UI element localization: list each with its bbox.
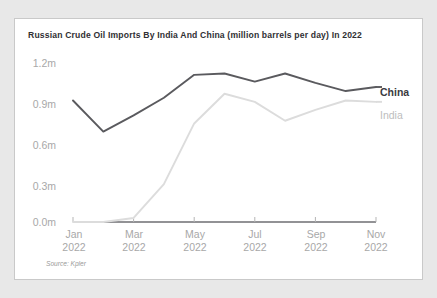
x-tick-label: Jul 2022 — [227, 228, 283, 253]
x-tick-year: 2022 — [167, 241, 223, 254]
x-tick-year: 2022 — [348, 241, 404, 254]
x-tick-year: 2022 — [227, 241, 283, 254]
x-tick-month: Mar — [106, 228, 162, 241]
chart-card: Russian Crude Oil Imports By India And C… — [14, 18, 423, 280]
x-tick-month: Jan — [46, 228, 102, 241]
x-tick-month: Nov — [348, 228, 404, 241]
x-tick-label: Nov 2022 — [348, 228, 404, 253]
x-tick-month: Jul — [227, 228, 283, 241]
x-tick-year: 2022 — [106, 241, 162, 254]
series-lines — [73, 74, 382, 223]
x-tick-label: May 2022 — [167, 228, 223, 253]
y-tick-label: 0.3m — [14, 180, 56, 192]
y-tick-label: 1.2m — [14, 57, 56, 69]
x-tick-year: 2022 — [46, 241, 102, 254]
source-note: Source: Kpler — [46, 260, 86, 267]
series-line-china — [73, 74, 376, 132]
y-tick-label: 0.0m — [14, 216, 56, 228]
series-label-india: India — [380, 109, 403, 121]
series-label-china: China — [380, 86, 409, 98]
x-tick-label: Jan 2022 — [46, 228, 102, 253]
x-tick-month: May — [167, 228, 223, 241]
y-tick-label: 0.9m — [14, 98, 56, 110]
x-tick-year: 2022 — [288, 241, 344, 254]
x-tick-label: Mar 2022 — [106, 228, 162, 253]
x-tick-month: Sep — [288, 228, 344, 241]
x-tick-label: Sep 2022 — [288, 228, 344, 253]
y-tick-label: 0.6m — [14, 139, 56, 151]
line-chart-plot: 1.2m 0.9m 0.6m 0.3m 0.0m Jan 2022 Mar 20… — [15, 19, 424, 281]
series-line-india — [73, 94, 376, 222]
